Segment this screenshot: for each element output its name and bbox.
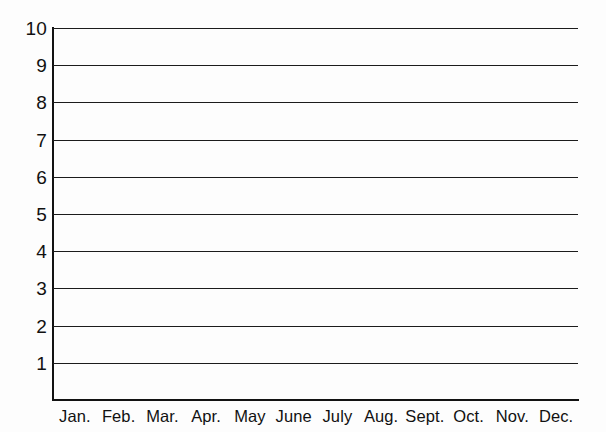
y-axis-tick-label-group: 10 9 8 7 6 5 4 3 2 1 bbox=[0, 28, 47, 400]
x-axis-tick-label-dec: Dec. bbox=[534, 404, 578, 430]
gridline-6 bbox=[53, 177, 578, 178]
y-axis-tick-label-10: 10 bbox=[3, 19, 47, 38]
x-axis-line bbox=[52, 399, 579, 401]
gridline-9 bbox=[53, 65, 578, 66]
blank-month-grid-chart: 10 9 8 7 6 5 4 3 2 1 Jan. Feb. Mar. Apr.… bbox=[0, 0, 606, 432]
gridline-10 bbox=[53, 28, 578, 29]
x-axis-tick-label-group: Jan. Feb. Mar. Apr. May June July Aug. S… bbox=[53, 404, 578, 430]
y-axis-tick-label-4: 4 bbox=[3, 242, 47, 261]
gridline-3 bbox=[53, 288, 578, 289]
gridline-4 bbox=[53, 251, 578, 252]
x-axis-tick-label-oct: Oct. bbox=[447, 404, 491, 430]
x-axis-tick-label-may: May bbox=[228, 404, 272, 430]
y-axis-tick-label-1: 1 bbox=[3, 354, 47, 373]
x-axis-tick-label-feb: Feb. bbox=[97, 404, 141, 430]
x-axis-tick-label-mar: Mar. bbox=[141, 404, 185, 430]
x-axis-tick-label-apr: Apr. bbox=[184, 404, 228, 430]
gridline-5 bbox=[53, 214, 578, 215]
y-axis-tick-label-2: 2 bbox=[3, 317, 47, 336]
gridline-8 bbox=[53, 102, 578, 103]
y-axis-tick-label-3: 3 bbox=[3, 279, 47, 298]
gridline-7 bbox=[53, 140, 578, 141]
x-axis-tick-label-jan: Jan. bbox=[53, 404, 97, 430]
x-axis-tick-label-aug: Aug. bbox=[359, 404, 403, 430]
y-axis-tick-label-6: 6 bbox=[3, 168, 47, 187]
plot-area bbox=[53, 28, 578, 400]
x-axis-tick-label-june: June bbox=[272, 404, 316, 430]
y-axis-tick-label-8: 8 bbox=[3, 93, 47, 112]
gridline-2 bbox=[53, 326, 578, 327]
y-axis-tick-label-7: 7 bbox=[3, 131, 47, 150]
x-axis-tick-label-nov: Nov. bbox=[491, 404, 535, 430]
x-axis-tick-label-july: July bbox=[316, 404, 360, 430]
y-axis-tick-label-5: 5 bbox=[3, 205, 47, 224]
x-axis-tick-label-sept: Sept. bbox=[403, 404, 447, 430]
y-axis-tick-label-9: 9 bbox=[3, 56, 47, 75]
gridline-1 bbox=[53, 363, 578, 364]
